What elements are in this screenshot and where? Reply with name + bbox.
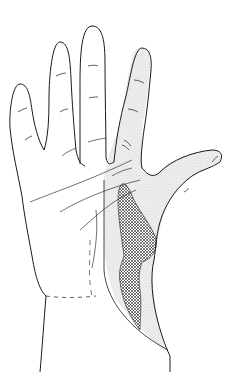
hand-diagram	[0, 0, 229, 384]
hand-illustration	[0, 0, 229, 384]
